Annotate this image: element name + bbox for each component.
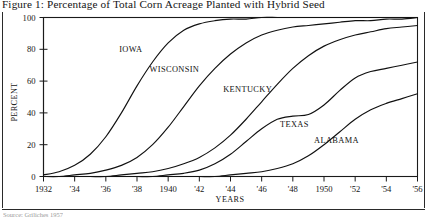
y-tick-label: 40 (27, 108, 36, 118)
figure-container: Figure 1: Percentage of Total Corn Acrea… (0, 0, 427, 220)
y-axis-title: PERCENT (10, 82, 19, 121)
x-tick-label: '36 (101, 184, 112, 194)
x-tick-label: '56 (412, 184, 423, 194)
x-tick-label: 1950 (315, 184, 332, 194)
y-tick-label: 60 (27, 76, 36, 86)
x-axis-title: YEARS (216, 195, 245, 204)
x-axis-tick-labels: 1932'34'36'381940'42'44'46'481950'52'54'… (35, 184, 423, 194)
chart-plot-area: 020406080100 1932'34'36'381940'42'44'46'… (0, 10, 427, 206)
x-tick-label: '34 (70, 184, 81, 194)
series-label-alabama: ALABAMA (314, 136, 359, 145)
page-footer: Source: Griliches 1957 (0, 206, 427, 220)
series-curve-wisconsin (44, 18, 418, 177)
footer-note: Source: Griliches 1957 (3, 211, 63, 219)
series-label-texas: TEXAS (280, 120, 309, 129)
x-axis-tick-group (44, 177, 418, 182)
series-curve-group (44, 17, 418, 176)
series-curve-iowa (44, 17, 418, 175)
x-tick-label: 1932 (35, 184, 52, 194)
y-tick-label: 20 (27, 140, 36, 150)
series-curve-texas (44, 62, 418, 177)
series-label-iowa: IOWA (119, 45, 142, 54)
x-tick-label: 1940 (160, 184, 177, 194)
y-tick-label: 100 (23, 13, 36, 23)
x-tick-label: '48 (288, 184, 298, 194)
y-axis-tick-labels: 020406080100 (23, 13, 36, 182)
x-tick-label: '54 (381, 184, 392, 194)
x-tick-label: '46 (257, 184, 268, 194)
series-label-group: IOWAWISCONSINKENTUCKYTEXASALABAMA (119, 45, 359, 145)
series-label-wisconsin: WISCONSIN (150, 65, 200, 74)
series-label-kentucky: KENTUCKY (223, 85, 272, 94)
y-tick-label: 0 (31, 172, 35, 182)
x-tick-label: '38 (132, 184, 142, 194)
x-tick-label: '44 (225, 184, 236, 194)
line-chart-svg: 020406080100 1932'34'36'381940'42'44'46'… (0, 10, 427, 206)
plot-frame (44, 18, 418, 177)
x-tick-label: '52 (350, 184, 360, 194)
y-tick-label: 80 (27, 44, 36, 54)
footer-divider (2, 209, 425, 210)
x-tick-label: '42 (194, 184, 204, 194)
